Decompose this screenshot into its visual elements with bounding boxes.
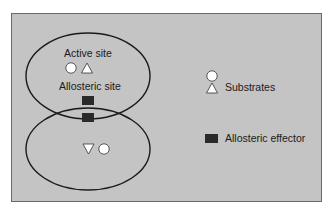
top-subunit-ellipse <box>26 33 150 119</box>
substrate-triangle-icon <box>82 63 93 73</box>
legend-circle-icon <box>207 71 217 81</box>
allosteric-site-label: Allosteric site <box>59 81 121 92</box>
legend-effector-icon <box>205 134 218 143</box>
legend-triangle-icon <box>207 83 218 93</box>
enzyme-diagram <box>0 0 331 210</box>
legend-effector-label: Allosteric effector <box>225 133 305 144</box>
allosteric-effector-icon <box>82 96 94 105</box>
allosteric-effector-icon <box>82 113 94 122</box>
substrate-triangle-inverted-icon <box>83 144 94 154</box>
legend-substrates-label: Substrates <box>225 82 275 93</box>
active-site-label: Active site <box>64 48 112 59</box>
substrate-circle-icon <box>66 63 76 73</box>
substrate-circle-icon <box>99 144 109 154</box>
